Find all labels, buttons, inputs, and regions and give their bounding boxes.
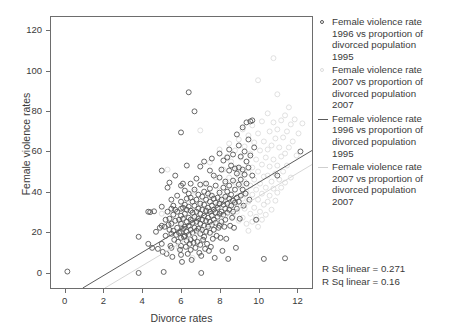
x-tick-label: 12 [292,296,303,306]
r-squared-series-2: R Sq linear = 0.16 [322,276,405,289]
x-tick-label: 2 [101,296,106,306]
y-tick-label: 120 [12,25,42,35]
chart-legend: Female violence rate 1996 vs proportion … [318,16,451,210]
legend-circle-icon [318,65,332,77]
x-tick-mark [181,289,182,293]
y-tick-mark [46,71,50,72]
x-tick-mark [65,289,66,293]
y-tick-mark [46,151,50,152]
legend-line-icon [318,114,332,126]
x-tick-label: 10 [253,296,264,306]
legend-label: Female violence rate 1996 vs proportion … [332,113,423,159]
y-tick-label: 0 [12,268,42,278]
scatter-series [65,90,303,276]
plot-area [50,16,313,289]
scatter-chart-figure: 020406080100120 024681012 Divorce rates … [0,0,451,332]
x-tick-label: 8 [217,296,222,306]
legend-entry[interactable]: Female violence rate 1996 vs proportion … [318,113,451,159]
legend-entry[interactable]: Female violence rate 1996 vs proportion … [318,16,451,62]
legend-entry[interactable]: Female violence rate 2007 vs proportion … [318,64,451,110]
x-tick-label: 6 [178,296,183,306]
legend-label: Female violence rate 1996 vs proportion … [332,16,423,62]
r-squared-annotations: R Sq linear = 0.271 R Sq linear = 0.16 [322,263,405,288]
x-tick-mark [259,289,260,293]
y-axis-title: Female violence rates [20,54,32,234]
x-tick-mark [220,289,221,293]
x-tick-mark [103,289,104,293]
x-axis-title: Divorce rates [50,312,313,324]
y-tick-mark [46,232,50,233]
x-tick-label: 0 [62,296,67,306]
r-squared-series-1: R Sq linear = 0.271 [322,263,405,276]
x-tick-label: 4 [140,296,145,306]
x-tick-mark [142,289,143,293]
y-tick-mark [46,30,50,31]
plot-canvas [51,17,312,288]
legend-label: Female violence rate 2007 vs proportion … [332,161,423,207]
legend-circle-icon [318,17,332,29]
regression-line [83,150,312,288]
y-tick-mark [46,192,50,193]
y-tick-mark [46,111,50,112]
x-tick-mark [297,289,298,293]
legend-entry[interactable]: Female violence rate 2007 vs proportion … [318,161,451,207]
legend-label: Female violence rate 2007 vs proportion … [332,64,423,110]
legend-line-icon [318,162,332,174]
y-tick-mark [46,273,50,274]
